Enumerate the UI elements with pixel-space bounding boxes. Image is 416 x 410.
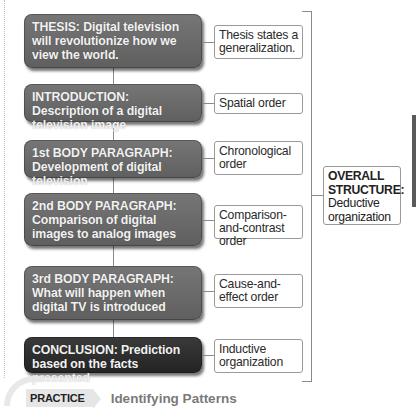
introduction-node: INTRODUCTION: Description of a digital t… [24,84,202,122]
connector-body3-conclusion [113,320,114,337]
practice-title: Identifying Patterns [111,391,237,406]
thesis-node: THESIS: Digital television will revoluti… [24,14,202,68]
connector-bracket-overall [311,195,323,196]
thesis-pattern-label: Thesis states a generalization. [214,25,303,59]
body-paragraph-3-node: 3rd BODY PARAGRAPH: What will happen whe… [24,266,202,320]
body2-pattern-label: Comparison-and-contrast order [214,205,303,239]
body1-pattern-label: Chronological order [214,141,303,175]
practice-tag: PRACTICE [26,389,93,407]
bracket-line [311,11,312,382]
overall-structure-box: OVERALL STRUCTURE: Deductive organizatio… [323,166,401,225]
page-edge-tab [412,115,416,207]
connector-body2-body3 [113,246,114,266]
body3-pattern-label: Cause-and-effect order [214,274,303,308]
body-paragraph-2-node: 2nd BODY PARAGRAPH: Comparison of digita… [24,193,202,246]
connector-conclusion-label [202,355,214,356]
conclusion-node: CONCLUSION: Prediction based on the fact… [24,337,202,373]
introduction-pattern-label: Spatial order [214,93,303,114]
body-paragraph-1-node: 1st BODY PARAGRAPH: Development of digit… [24,140,202,178]
connector-body1-label [202,158,214,159]
bracket-bottom [302,381,312,382]
overall-structure-heading: OVERALL STRUCTURE: [328,170,396,197]
overall-structure-text: Deductive organization [328,196,391,224]
connector-intro-label [202,103,214,104]
practice-heading: PRACTICE Identifying Patterns [26,388,237,408]
connector-body2-label [202,220,214,221]
connector-thesis-intro [113,68,114,84]
connector-body1-body2 [113,178,114,193]
conclusion-pattern-label: Inductive organization [214,339,303,373]
page-margin-dotted-line [4,0,5,378]
connector-thesis-label [202,42,214,43]
connector-body3-label [202,291,214,292]
